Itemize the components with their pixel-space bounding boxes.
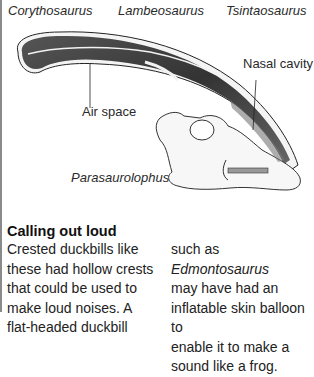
body-text: such as — [171, 241, 219, 257]
body-line: such as Edmontosaurus — [171, 240, 311, 279]
label-nasal-cavity: Nasal cavity — [243, 56, 313, 71]
body-line: Crested duckbills like — [7, 240, 157, 260]
body-line: sound like a frog. — [171, 357, 311, 377]
species-name-edmontosaurus: Edmontosaurus — [171, 261, 269, 277]
species-label-lambeosaurus: Lambeosaurus — [118, 3, 204, 18]
body-line: flat-headed duckbill — [7, 318, 157, 338]
body-line: that could be used to — [7, 279, 157, 299]
species-label-tsintaosaurus: Tsintaosaurus — [226, 3, 306, 18]
label-parasaurolophus: Parasaurolophus — [71, 170, 169, 185]
article-column-1: Crested duckbills like these had hollow … — [7, 240, 157, 338]
article-column-2: such as Edmontosaurus may have had an in… — [171, 240, 311, 377]
label-air-space: Air space — [82, 104, 136, 119]
body-line: these had hollow crests — [7, 260, 157, 280]
body-line: inflatable skin balloon to — [171, 299, 311, 338]
body-line: make loud noises. A — [7, 299, 157, 319]
body-line: may have had an — [171, 279, 311, 299]
article-heading: Calling out loud — [7, 223, 117, 239]
body-line: enable it to make a — [171, 338, 311, 358]
species-header-row: Corythosaurus Lambeosaurus Tsintaosaurus — [8, 3, 310, 19]
species-label-corythosaurus: Corythosaurus — [8, 3, 93, 18]
